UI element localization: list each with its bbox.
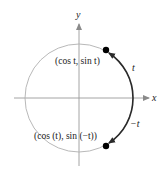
unit-circle-diagram: y x t −t (cos t, sin t) (cos (t), sin (−…	[0, 0, 166, 172]
x-axis-label: x	[151, 92, 157, 103]
upper-point-label: (cos t, sin t)	[55, 56, 100, 67]
point-lower	[103, 143, 109, 149]
y-axis-label: y	[75, 9, 81, 20]
arc-t-label: t	[132, 62, 135, 73]
lower-point-label: (cos (t), sin (−t))	[34, 131, 97, 142]
point-upper	[103, 47, 109, 53]
arc-t	[109, 53, 133, 98]
arc-minus-t-label: −t	[130, 118, 140, 129]
